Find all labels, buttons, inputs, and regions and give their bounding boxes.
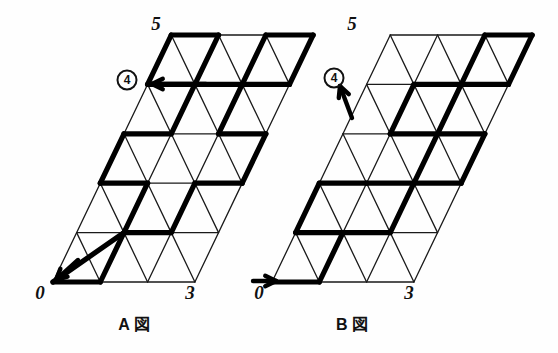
figA-lattice-diag-down-2-2: [219, 134, 243, 183]
figA-step-marker-text: 4: [124, 73, 131, 87]
figB-lattice-diag-down-4-1: [438, 35, 462, 84]
figA-path-seg-5: [171, 84, 195, 133]
figA-path-seg-15: [219, 84, 243, 133]
figA-lattice-diag-down-0-1: [124, 233, 148, 282]
figA-lattice-diag-down-1-1: [148, 183, 172, 232]
figB-lattice-diag-down-1-2: [414, 183, 438, 232]
figB-path-seg-10: [461, 35, 485, 84]
figB-path-seg-6: [414, 134, 438, 183]
figure-canvas: 0 3 5 0 3 5 A 図 B 図 4 4: [0, 0, 558, 353]
figB-lattice-diag-down-4-2: [485, 35, 509, 84]
figA-path-seg-19: [171, 183, 195, 232]
figA-lattice-diag-down-3-0: [148, 84, 172, 133]
figA-path-seg-13: [290, 35, 314, 84]
figB-lattice-diag-down-3-0: [367, 84, 391, 133]
figB-label-top: 5: [347, 13, 357, 34]
figB-lattice-diag-down-0-1: [343, 233, 367, 282]
figA-path-seg-7: [148, 35, 172, 84]
triangular-lattice-diagram: 0 3 5 0 3 5 A 図 B 図 4 4: [0, 0, 558, 353]
figA-label-top: 5: [151, 13, 161, 34]
figA-path-seg-3: [100, 134, 124, 183]
figB-label-right: 3: [403, 282, 414, 303]
figB-step-marker: 4: [325, 69, 344, 88]
figB-path-seg-3: [296, 183, 320, 232]
figA-lattice-diag-down-0-2: [171, 233, 195, 282]
figA-path-seg-17: [242, 134, 266, 183]
figA-path-seg-9: [195, 35, 219, 84]
figB-label-origin: 0: [254, 282, 264, 303]
figA-lattice-diag-down-3-2: [242, 84, 266, 133]
diagram-labels: 0 3 5 0 3 5 A 図 B 図: [35, 13, 414, 333]
figA-lattice-diag-down-4-1: [219, 35, 243, 84]
figB-lattice-diag-down-2-1: [390, 134, 414, 183]
figB-lattice-diag-down-3-2: [461, 84, 485, 133]
figB-lattice-diag-down-0-0: [296, 233, 320, 282]
figB-path-seg-14: [438, 84, 462, 133]
lattice-thick-path: [53, 35, 532, 282]
figA-path-seg-1: [124, 183, 148, 232]
figA-lattice-diag-down-4-2: [266, 35, 290, 84]
figB-step-marker-text: 4: [331, 71, 338, 85]
figB-path-seg-8: [390, 84, 414, 133]
figB-path-seg-16: [461, 134, 485, 183]
figA-lattice-diag-down-3-1: [195, 84, 219, 133]
figA-label-right: 3: [184, 282, 195, 303]
figA-lattice-diag-down-1-2: [195, 183, 219, 232]
figB-lattice-diag-down-4-0: [390, 35, 414, 84]
figB-lattice-diag-down-3-1: [414, 84, 438, 133]
figA-caption: A 図: [118, 316, 149, 333]
figA-step-marker: 4: [118, 71, 137, 90]
figA-lattice-diag-down-2-0: [124, 134, 148, 183]
figB-path-seg-12: [509, 35, 533, 84]
figA-lattice-diag-down-1-0: [100, 183, 124, 232]
figB-lattice-diag-down-2-0: [343, 134, 367, 183]
figB-path-seg-1: [319, 233, 343, 282]
figB-lattice-diag-down-2-2: [438, 134, 462, 183]
figA-lattice-diag-down-4-0: [171, 35, 195, 84]
figB-lattice-diag-down-1-1: [367, 183, 391, 232]
figA-path-seg-11: [242, 35, 266, 84]
figA-label-origin: 0: [35, 282, 45, 303]
figB-lattice-diag-down-0-2: [390, 233, 414, 282]
figB-caption: B 図: [336, 316, 368, 333]
figB-lattice-diag-down-1-0: [319, 183, 343, 232]
figA-lattice-diag-down-2-1: [171, 134, 195, 183]
figB-path-seg-18: [390, 183, 414, 232]
